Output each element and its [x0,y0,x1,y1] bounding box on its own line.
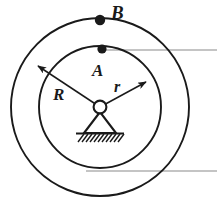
ground-hatching [78,134,124,142]
label-point-a: A [91,61,103,80]
inner-radius-arrow [100,82,146,107]
support-triangle [84,112,116,133]
pin-support [76,101,124,142]
outer-radius-arrow [38,66,100,107]
label-inner-radius: r [114,78,121,95]
label-outer-radius: R [52,85,64,104]
hinge-pin-icon [94,101,107,114]
figure-canvas: B A R r [0,0,217,219]
concentric-circles-diagram: B A R r [0,0,217,219]
point-b-marker [95,15,105,25]
point-a-marker [97,44,106,53]
label-point-b: B [110,2,124,23]
